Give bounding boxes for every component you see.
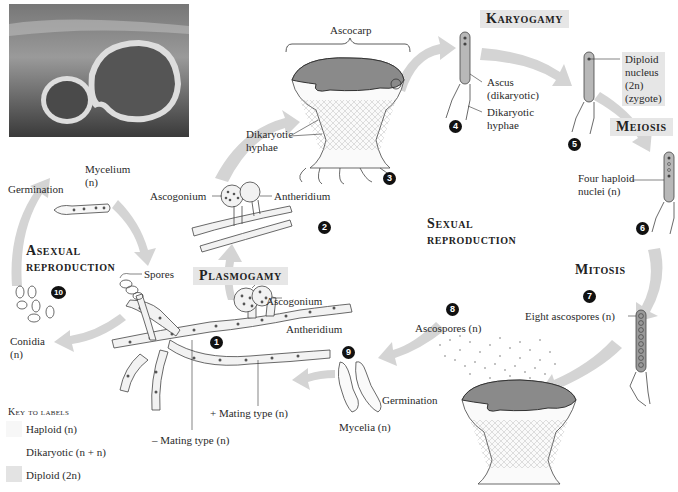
label-line: hyphae: [246, 141, 278, 153]
step-7-badge: 7: [583, 290, 596, 303]
label-line: (n): [85, 176, 98, 188]
ascus-four-haploid: [652, 152, 674, 234]
mycelium-label: Mycelium(n): [85, 163, 130, 189]
plasmogamy-title: Plasmogamy: [193, 267, 288, 285]
mitosis-title: Mitosis: [575, 262, 626, 278]
sexual-title-line1: Sexual: [427, 216, 516, 232]
ascocarp-bottom: [462, 380, 576, 484]
diploid-swatch: [6, 466, 22, 482]
step-6-badge: 6: [636, 222, 649, 235]
label-line: Dikaryotic: [246, 128, 293, 140]
asexual-title-line2: reproduction: [26, 259, 115, 275]
plus-mating-type-label: + Mating type (n): [210, 407, 288, 420]
four-haploid-nuclei-label: Four haploidnuclei (n): [578, 172, 635, 198]
step-10-badge: 10: [51, 286, 66, 299]
antheridium-top-label: Antheridium: [274, 190, 330, 203]
label-line: nucleus: [625, 66, 659, 78]
ascocarp-label: Ascocarp: [330, 24, 372, 37]
label-line: hyphae: [487, 119, 519, 131]
dikaryotic-swatch: [6, 444, 22, 460]
label-line: Four haploid: [578, 172, 635, 184]
label-line: (2n): [625, 79, 643, 91]
ascocarp-top: [292, 58, 404, 184]
step-3-badge: 3: [383, 172, 396, 185]
label-line: nuclei (n): [578, 185, 620, 197]
germination-right-label: Germination: [382, 394, 438, 407]
label-line: Mycelium: [85, 163, 130, 175]
label-line: Ascus: [487, 76, 514, 88]
key-title: Key to labels: [8, 406, 69, 417]
label-line: Diploid: [625, 53, 659, 65]
ascus-label: Ascus(dikaryotic): [487, 76, 539, 102]
label-line: (dikaryotic): [487, 89, 539, 101]
germinating-mycelium: [54, 204, 110, 215]
step-8-badge: 8: [446, 303, 459, 316]
karyogamy-title: Karyogamy: [480, 10, 569, 28]
haploid-swatch: [6, 421, 22, 437]
ascospores-label: Ascospores (n): [415, 322, 481, 335]
haploid-key-label: Haploid (n): [26, 423, 77, 436]
antheridium-bottom-label: Antheridium: [286, 323, 342, 336]
step-5-badge: 5: [568, 138, 581, 151]
label-line: Conidia: [10, 335, 45, 347]
label-line: Dikaryotic: [487, 106, 534, 118]
ascospore-cloud: [439, 335, 556, 379]
germination-left-label: Germination: [8, 183, 64, 196]
label-line: (zygote): [625, 92, 662, 104]
step-9-badge: 9: [342, 346, 355, 359]
asexual-title-line1: Asexual: [26, 243, 115, 259]
step-1-badge: 1: [210, 336, 223, 349]
step-4-badge: 4: [449, 120, 462, 133]
meiosis-title: Meiosis: [610, 118, 673, 136]
ascus-diploid: [572, 52, 594, 134]
spores-label: Spores: [144, 268, 174, 281]
sexual-title-line2: reproduction: [427, 232, 516, 248]
minus-mating-type-label: – Mating type (n): [152, 434, 229, 447]
asexual-reproduction-title: Asexual reproduction: [26, 243, 115, 275]
diploid-nucleus-label: Diploidnucleus(2n)(zygote): [622, 52, 665, 106]
dikaryotic-hyphae-right-label: Dikaryotichyphae: [487, 106, 534, 132]
ascogonium-bottom-label: Ascogonium: [266, 295, 322, 308]
dikaryotic-key-label: Dikaryotic (n + n): [26, 446, 106, 459]
dikaryotic-hyphae-left-label: Dikaryotichyphae: [246, 128, 293, 154]
eight-ascospores-label: Eight ascospores (n): [525, 310, 615, 323]
diploid-key-label: Diploid (2n): [26, 469, 81, 482]
mycelia-label: Mycelia (n): [339, 421, 391, 434]
germinating-mycelia: [338, 362, 381, 412]
sexual-reproduction-title: Sexual reproduction: [427, 216, 516, 248]
label-line: (n): [10, 348, 23, 360]
conidia-spores: [16, 286, 54, 322]
ascocarp-bracket: [286, 38, 410, 52]
conidia-label: Conidia(n): [10, 335, 45, 361]
ascogonium-top-label: Ascogonium: [150, 190, 206, 203]
step-2-badge: 2: [318, 221, 331, 234]
ascus-eight-ascospores: [630, 310, 650, 406]
